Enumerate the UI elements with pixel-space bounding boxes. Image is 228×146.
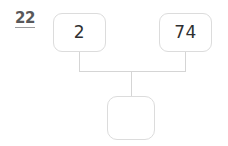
number-bond-part-2-box[interactable]: 74 xyxy=(159,13,212,52)
number-bond-part-1-box[interactable]: 2 xyxy=(53,13,106,52)
number-bond-part-1-value: 2 xyxy=(74,24,85,41)
number-bond-total-answer-box[interactable] xyxy=(107,96,155,140)
worksheet-canvas: 22 2 74 xyxy=(0,0,228,146)
number-bond-part-2-value: 74 xyxy=(174,24,197,41)
question-number: 22 xyxy=(15,10,35,28)
